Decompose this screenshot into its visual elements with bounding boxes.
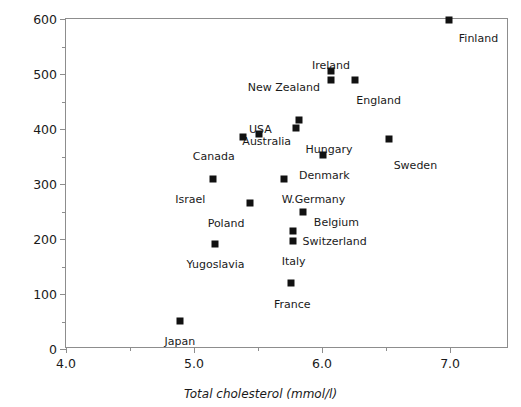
y-tick-minor bbox=[62, 47, 66, 48]
point-label: Israel bbox=[175, 194, 205, 205]
x-tick-mark bbox=[66, 347, 67, 353]
x-tick-mark bbox=[450, 347, 451, 353]
point-label: Finland bbox=[459, 33, 498, 44]
scatter-marker[interactable] bbox=[280, 176, 287, 183]
scatter-marker[interactable] bbox=[211, 240, 218, 247]
point-label: Hungary bbox=[305, 144, 352, 155]
y-tick-minor bbox=[62, 212, 66, 213]
point-label: Poland bbox=[208, 218, 245, 229]
scatter-marker[interactable] bbox=[239, 134, 246, 141]
y-tick-label: 200 bbox=[33, 232, 57, 247]
x-tick-minor bbox=[258, 347, 259, 351]
scatter-marker[interactable] bbox=[293, 124, 300, 131]
scatter-marker[interactable] bbox=[296, 117, 303, 124]
y-tick-mark bbox=[60, 239, 66, 240]
point-label: Italy bbox=[282, 256, 306, 267]
scatter-marker[interactable] bbox=[247, 200, 254, 207]
point-label: Denmark bbox=[299, 170, 350, 181]
scatter-marker[interactable] bbox=[445, 17, 452, 24]
scatter-marker[interactable] bbox=[352, 77, 359, 84]
scatter-marker[interactable] bbox=[385, 135, 392, 142]
point-label: Australia bbox=[242, 136, 291, 147]
point-label: Belgium bbox=[314, 217, 359, 228]
chart-root: CHD deaths (per 100 000) Total cholester… bbox=[0, 0, 521, 407]
point-label: W.Germany bbox=[282, 194, 346, 205]
y-tick-minor bbox=[62, 322, 66, 323]
y-tick-mark bbox=[60, 74, 66, 75]
scatter-marker[interactable] bbox=[289, 238, 296, 245]
point-label: France bbox=[274, 299, 311, 310]
scatter-marker[interactable] bbox=[328, 77, 335, 84]
x-tick-label: 6.0 bbox=[312, 356, 332, 371]
scatter-marker[interactable] bbox=[176, 317, 183, 324]
y-tick-mark bbox=[60, 19, 66, 20]
x-tick-mark bbox=[322, 347, 323, 353]
x-tick-minor bbox=[386, 347, 387, 351]
plot-area: 01002003004005006004.05.06.07.0 FinlandI… bbox=[65, 18, 508, 348]
x-tick-label: 4.0 bbox=[56, 356, 76, 371]
scatter-marker[interactable] bbox=[288, 280, 295, 287]
point-label: England bbox=[356, 95, 401, 106]
scatter-marker[interactable] bbox=[210, 176, 217, 183]
y-tick-mark bbox=[60, 129, 66, 130]
y-tick-label: 400 bbox=[33, 122, 57, 137]
point-label: New Zealand bbox=[248, 82, 320, 93]
y-tick-label: 0 bbox=[49, 342, 57, 357]
y-tick-mark bbox=[60, 294, 66, 295]
point-label: Japan bbox=[165, 336, 196, 347]
y-tick-label: 500 bbox=[33, 67, 57, 82]
point-label: Canada bbox=[193, 151, 235, 162]
point-label: Ireland bbox=[312, 60, 350, 71]
y-tick-label: 100 bbox=[33, 287, 57, 302]
point-label: Switzerland bbox=[303, 236, 367, 247]
point-label: USA bbox=[249, 124, 272, 135]
scatter-marker[interactable] bbox=[299, 209, 306, 216]
x-tick-label: 7.0 bbox=[440, 356, 460, 371]
point-label: Sweden bbox=[394, 160, 437, 171]
point-label: Yugoslavia bbox=[187, 259, 245, 270]
y-tick-minor bbox=[62, 267, 66, 268]
y-tick-label: 600 bbox=[33, 12, 57, 27]
scatter-marker[interactable] bbox=[289, 228, 296, 235]
x-axis-title: Total cholesterol (mmol/l) bbox=[0, 387, 521, 401]
x-tick-minor bbox=[130, 347, 131, 351]
scatter-marker[interactable] bbox=[320, 151, 327, 158]
y-tick-minor bbox=[62, 102, 66, 103]
x-tick-label: 5.0 bbox=[184, 356, 204, 371]
y-tick-label: 300 bbox=[33, 177, 57, 192]
y-tick-minor bbox=[62, 157, 66, 158]
y-tick-mark bbox=[60, 184, 66, 185]
